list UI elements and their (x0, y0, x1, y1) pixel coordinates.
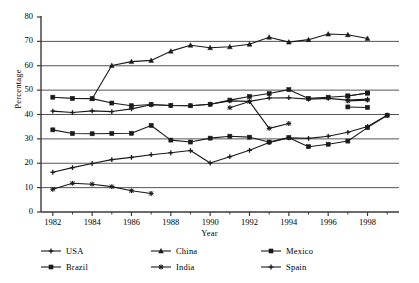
legend-label: Spain (286, 262, 306, 272)
legend-marker-star-icon (150, 262, 172, 272)
series-india-right (345, 98, 369, 104)
y-tick-label: 20 (7, 158, 33, 167)
series-line (348, 100, 368, 101)
x-tick-label: 1992 (230, 218, 270, 227)
x-tick-label: 1996 (308, 218, 348, 227)
series-brazil (51, 88, 370, 108)
legend-label: USA (66, 246, 84, 256)
y-tick-label: 10 (7, 183, 33, 192)
series-india (50, 181, 153, 196)
chart-legend: USABrazilChinaIndiaMexicoSpain (40, 243, 370, 279)
series-spain (50, 113, 389, 175)
x-tick-label: 1988 (151, 218, 191, 227)
legend-marker-square-icon (260, 246, 282, 256)
legend-marker-plus-icon (40, 246, 62, 256)
x-tick-label: 1982 (33, 218, 73, 227)
x-tick-label: 1998 (348, 218, 388, 227)
y-tick-label: 50 (7, 85, 33, 94)
legend-item-china[interactable]: China (150, 243, 260, 259)
y-tick-label: 60 (7, 61, 33, 70)
legend-item-spain[interactable]: Spain (260, 259, 370, 275)
line-chart: Percentage Year 01020304050607080 198219… (0, 0, 419, 283)
chart-plot-area (0, 0, 419, 283)
y-tick-label: 70 (7, 36, 33, 45)
series-line (348, 93, 368, 96)
legend-marker-square-icon (40, 262, 62, 272)
series-line (53, 183, 151, 193)
legend-label: Mexico (286, 246, 313, 256)
legend-item-india[interactable]: India (150, 259, 260, 275)
legend-item-mexico[interactable]: Mexico (260, 243, 370, 259)
legend-item-brazil[interactable]: Brazil (40, 259, 150, 275)
y-tick-label: 40 (7, 110, 33, 119)
series-line (53, 115, 387, 146)
x-tick-label: 1984 (72, 218, 112, 227)
y-tick-label: 30 (7, 134, 33, 143)
series-mexico (51, 113, 389, 148)
x-tick-label: 1990 (190, 218, 230, 227)
legend-marker-plus-icon (260, 262, 282, 272)
y-tick-label: 80 (7, 12, 33, 21)
series-mexico-right (346, 105, 370, 109)
series-brazil-right (346, 91, 370, 98)
legend-item-usa[interactable]: USA (40, 243, 150, 259)
y-tick-label: 0 (7, 207, 33, 216)
legend-label: India (176, 262, 194, 272)
legend-marker-triangle-icon (150, 246, 172, 256)
x-tick-label: 1994 (269, 218, 309, 227)
legend-label: China (176, 246, 197, 256)
x-tick-label: 1986 (111, 218, 151, 227)
x-axis-title: Year (0, 228, 419, 238)
legend-label: Brazil (66, 262, 88, 272)
